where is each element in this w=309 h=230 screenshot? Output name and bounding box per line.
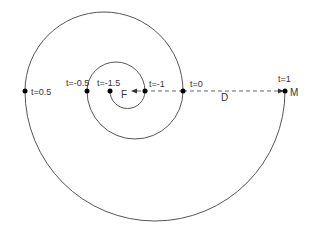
point-t-1 xyxy=(283,89,288,94)
label-distance-d: D xyxy=(221,92,228,103)
point-t-0 xyxy=(181,89,186,94)
label-t-1: t=1 xyxy=(278,74,291,84)
point-t-0.5-positive xyxy=(23,89,28,94)
label-moving-point-m: M xyxy=(290,87,298,98)
label-t-neg-0.5: t=-0.5 xyxy=(66,78,89,88)
label-t-0: t=0 xyxy=(190,79,203,89)
label-t-0.5: t=0.5 xyxy=(31,87,51,97)
arc-inner-bottom xyxy=(110,91,145,109)
point-t-neg-1 xyxy=(143,89,148,94)
point-t-neg-1.5 xyxy=(108,89,113,94)
spiral-diagram: t=0.5 t=-0.5 t=-1.5 t=-1 t=0 t=1 F M D xyxy=(0,0,309,230)
arc-outer-bottom xyxy=(25,91,285,221)
label-t-neg-1: t=-1 xyxy=(149,79,165,89)
label-t-neg-1.5: t=-1.5 xyxy=(97,78,120,88)
arc-third-bottom xyxy=(87,91,183,139)
arrowhead-to-focus xyxy=(131,89,137,94)
label-focus-f: F xyxy=(121,89,127,100)
point-t-neg-0.5 xyxy=(85,89,90,94)
